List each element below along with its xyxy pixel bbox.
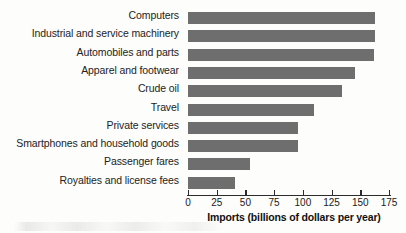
category-label: Automobiles and parts	[0, 47, 179, 58]
category-label: Smartphones and household goods	[0, 138, 179, 149]
x-tick-label: 75	[259, 197, 289, 208]
x-tick-mark	[245, 190, 246, 196]
category-label: Private services	[0, 120, 179, 131]
bar	[188, 104, 314, 116]
x-tick-mark	[303, 190, 304, 196]
bar	[188, 30, 375, 42]
x-tick-label: 150	[345, 197, 375, 208]
category-label: Computers	[0, 10, 179, 21]
x-tick-mark	[332, 190, 333, 196]
category-label: Apparel and footwear	[0, 65, 179, 76]
bar	[188, 177, 235, 189]
x-tick-mark	[217, 190, 218, 196]
bar	[188, 49, 374, 61]
x-axis-title: Imports (billions of dollars per year)	[188, 211, 400, 223]
x-tick-label: 50	[230, 197, 260, 208]
x-tick-label: 175	[374, 197, 404, 208]
bar	[188, 12, 375, 24]
bar	[188, 85, 342, 97]
bar	[188, 140, 298, 152]
bar	[188, 158, 250, 170]
imports-bar-chart: Computers Industrial and service machine…	[0, 0, 406, 233]
x-tick-label: 0	[173, 197, 203, 208]
x-tick-mark	[360, 190, 361, 196]
category-label: Industrial and service machinery	[0, 28, 179, 39]
x-tick-label: 25	[202, 197, 232, 208]
bar	[188, 67, 355, 79]
category-label: Royalties and license fees	[0, 175, 179, 186]
plot-area	[188, 9, 398, 192]
bar	[188, 122, 298, 134]
x-tick-mark	[188, 190, 189, 196]
x-tick-mark	[274, 190, 275, 196]
category-label: Travel	[0, 102, 179, 113]
scan-artifact	[14, 222, 224, 231]
x-tick-label: 100	[288, 197, 318, 208]
x-tick-label: 125	[317, 197, 347, 208]
category-labels: Computers Industrial and service machine…	[0, 9, 183, 192]
x-tick-mark	[389, 190, 390, 196]
category-label: Passenger fares	[0, 156, 179, 167]
category-label: Crude oil	[0, 83, 179, 94]
